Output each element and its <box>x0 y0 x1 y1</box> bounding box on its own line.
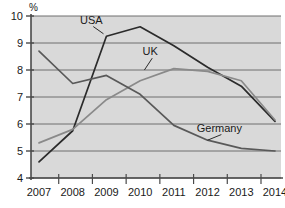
y-axis-unit-label: % <box>29 2 38 13</box>
y-tick-label: 10 <box>11 10 23 22</box>
series-label-uk: UK <box>143 45 159 57</box>
line-chart: 10987654 2007200820092010201120122013201… <box>0 0 285 208</box>
x-tick-label: 2007 <box>27 186 51 198</box>
y-tick-label: 5 <box>17 145 23 157</box>
x-tick-label: 2008 <box>60 186 84 198</box>
y-tick-label: 8 <box>17 64 23 76</box>
x-tick-label: 2009 <box>94 186 118 198</box>
y-tick-label: 4 <box>17 172 23 184</box>
y-tick-label: 9 <box>17 37 23 49</box>
x-tick-label: 2012 <box>195 186 219 198</box>
x-tick-label: 2011 <box>162 186 186 198</box>
chart-svg: 10987654 2007200820092010201120122013201… <box>0 0 285 208</box>
x-tick-label: 2014 <box>263 186 285 198</box>
y-tick-label: 6 <box>17 118 23 130</box>
series-label-usa: USA <box>80 14 103 26</box>
x-tick-label: 2013 <box>229 186 253 198</box>
series-label-germany: Germany <box>197 122 243 134</box>
x-tick-label: 2010 <box>128 186 152 198</box>
y-tick-label: 7 <box>17 91 23 103</box>
